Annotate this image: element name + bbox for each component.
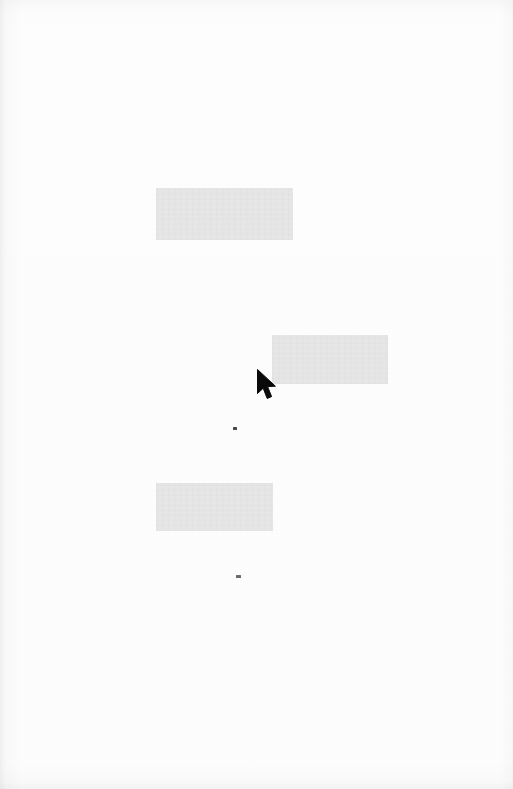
redaction-block-top — [156, 188, 293, 240]
speck-upper — [233, 427, 237, 430]
paper-grain-texture — [0, 0, 513, 789]
redaction-block-bottom — [156, 483, 273, 531]
speck-lower — [236, 575, 241, 578]
scanned-page — [0, 0, 513, 789]
redaction-block-middle — [272, 335, 388, 384]
